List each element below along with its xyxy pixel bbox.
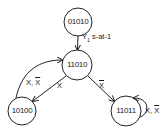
edge-label-xbar: X [99, 82, 104, 90]
edge-label-fault: Y1 s-at-1 [82, 33, 111, 43]
edge-01010-to-11010 [78, 36, 79, 50]
node-01010-label: 01010 [68, 18, 89, 26]
edge-label-x-loop: X, [145, 106, 154, 115]
edge-label-xbar-left: X [35, 78, 40, 87]
edge-label-x-xbar-loop: X, X [145, 107, 159, 115]
node-11010-label: 11010 [67, 61, 87, 69]
edge-label-fault-rest: s-at-1 [90, 32, 111, 41]
edge-label-xbar-loop: X [154, 106, 159, 115]
state-diagram: 01010 11010 10100 11011 Y1 s-at-1 X X, X… [0, 0, 167, 136]
edge-label-x-left: X, [26, 78, 35, 87]
edge-label-x-xbar-left: X, X [26, 79, 40, 87]
node-10100-label: 10100 [12, 107, 33, 115]
edge-label-x: X [57, 82, 62, 90]
node-11011-label: 11011 [116, 107, 136, 115]
